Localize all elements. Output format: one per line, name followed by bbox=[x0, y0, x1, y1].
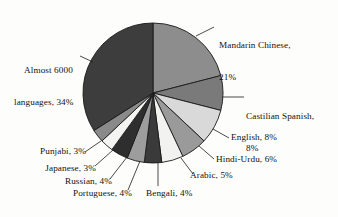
label-mandarin-chinese-text: Mandarin Chinese, bbox=[219, 40, 337, 51]
label-mandarin-chinese-value: 21% bbox=[219, 72, 323, 83]
label-english: English, 8% bbox=[231, 132, 331, 143]
leader-line-mandarin bbox=[196, 27, 214, 36]
label-russian: Russian, 4% bbox=[20, 176, 112, 187]
leader-line-portuguese bbox=[128, 161, 140, 190]
pie-chart-figure: Mandarin Chinese, 21% Castilian Spanish,… bbox=[0, 0, 338, 217]
label-portuguese: Portuguese, 4% bbox=[28, 188, 132, 199]
label-other-languages-line1: Almost 6000 bbox=[14, 65, 124, 76]
label-other-languages: Almost 6000 languages, 34% bbox=[14, 44, 124, 128]
leader-line-japanese bbox=[95, 150, 113, 166]
label-bengali: Bengali, 4% bbox=[146, 188, 236, 199]
label-arabic: Arabic, 5% bbox=[190, 170, 280, 181]
label-hindi-urdu: Hindi-Urdu, 6% bbox=[216, 154, 326, 165]
label-japanese: Japanese, 3% bbox=[12, 163, 96, 174]
label-other-languages-line2: languages, 34% bbox=[14, 97, 124, 108]
leader-line-english bbox=[213, 129, 229, 138]
label-punjabi: Punjabi, 3% bbox=[8, 146, 86, 157]
label-castilian-spanish-value: 8% bbox=[246, 143, 330, 154]
leader-line-hindi bbox=[199, 146, 214, 159]
leader-line-punjabi bbox=[85, 141, 101, 152]
leader-line-russian bbox=[110, 157, 127, 179]
label-castilian-spanish-text: Castilian Spanish, bbox=[246, 111, 338, 122]
